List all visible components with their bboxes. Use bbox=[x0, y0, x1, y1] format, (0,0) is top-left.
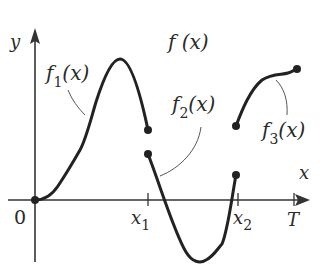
function-title: f (x) bbox=[166, 30, 209, 54]
x-axis-label: x bbox=[299, 162, 309, 183]
label-f3: f3(x) bbox=[260, 118, 305, 147]
curve-f2 bbox=[148, 154, 236, 262]
tick-label-x2: x2 bbox=[233, 207, 252, 233]
leader-f1 bbox=[68, 90, 85, 115]
y-axis-label: y bbox=[9, 31, 21, 52]
leader-f3 bbox=[276, 80, 287, 115]
label-f1: f1(x) bbox=[44, 61, 89, 90]
f1-start-point bbox=[31, 196, 39, 204]
leader-f2 bbox=[160, 127, 201, 176]
label-f2: f2(x) bbox=[170, 92, 215, 121]
f2-start-point bbox=[144, 150, 152, 158]
tick-label-T: T bbox=[287, 209, 301, 230]
piecewise-function-diagram: y x 0 x1 x2 T f (x) f1(x) f2(x) f3(x) bbox=[0, 0, 323, 270]
origin-label: 0 bbox=[14, 206, 26, 228]
f2-end-point bbox=[232, 171, 240, 179]
f3-end-point bbox=[293, 65, 301, 73]
tick-label-x1: x1 bbox=[131, 207, 150, 233]
f1-end-point bbox=[144, 126, 152, 134]
f3-start-point bbox=[232, 122, 240, 130]
